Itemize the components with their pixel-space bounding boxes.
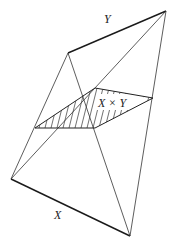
join-line-y-start-x-start bbox=[11, 53, 68, 179]
join-diagram: Y X X × Y bbox=[0, 0, 172, 251]
join-line-y-start-x-end bbox=[68, 53, 130, 236]
segment-y bbox=[68, 11, 166, 53]
label-x: X bbox=[53, 208, 62, 222]
label-product: X × Y bbox=[97, 96, 127, 110]
segment-x bbox=[11, 179, 130, 236]
label-y: Y bbox=[104, 12, 112, 26]
